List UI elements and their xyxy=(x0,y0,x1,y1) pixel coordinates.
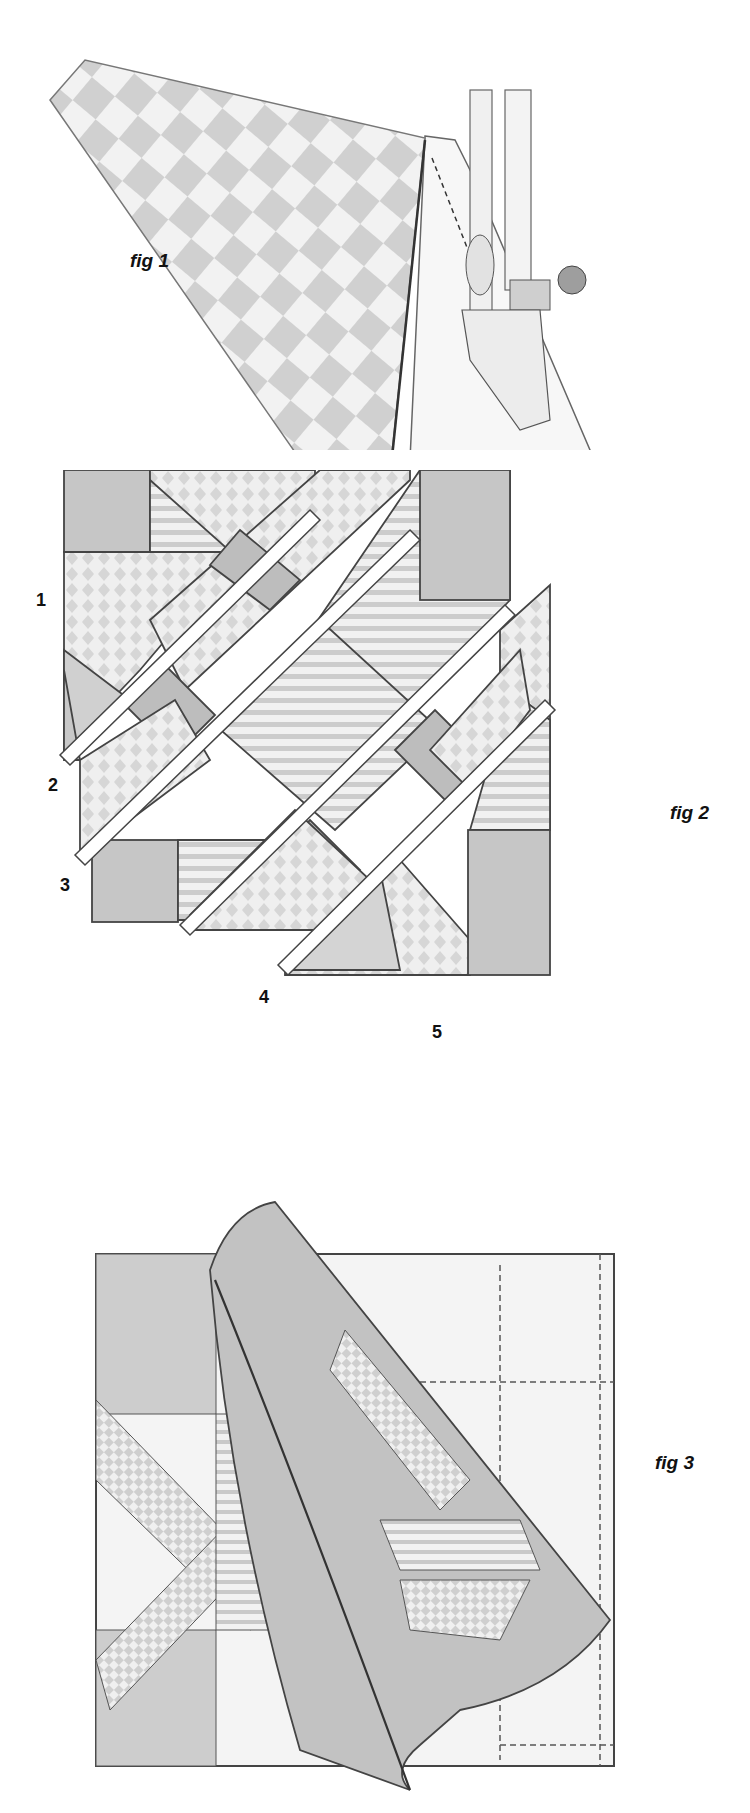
fig2-illustration xyxy=(0,470,750,1030)
fig1-illustration xyxy=(0,0,750,450)
figure-2: 1 2 3 4 5 fig 2 xyxy=(0,470,750,1030)
fig1-caption: fig 1 xyxy=(130,250,169,272)
row-label-4: 4 xyxy=(259,987,269,1008)
row-label-5: 5 xyxy=(432,1022,442,1043)
row-label-2: 2 xyxy=(48,775,58,796)
figure-3: fig 3 xyxy=(0,1190,750,1813)
row-label-3: 3 xyxy=(60,875,70,896)
row-label-1: 1 xyxy=(36,590,46,611)
fig3-illustration xyxy=(0,1190,750,1813)
fig3-caption: fig 3 xyxy=(655,1452,694,1474)
figure-1: fig 1 xyxy=(0,0,750,450)
fig2-caption: fig 2 xyxy=(670,802,709,824)
